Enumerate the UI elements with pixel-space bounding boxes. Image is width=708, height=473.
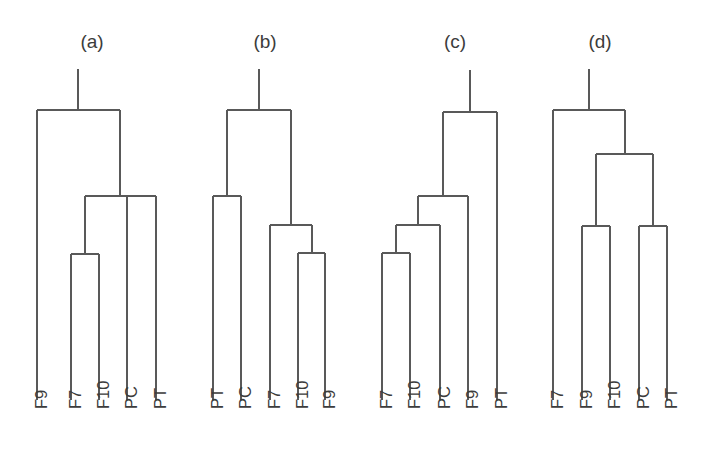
panel-title-a: (a) xyxy=(80,31,103,52)
panel-title-b: (b) xyxy=(253,31,276,52)
leaf-label: F9 xyxy=(32,390,50,409)
leaf-label: F9 xyxy=(463,390,481,409)
dendrogram-canvas: (a)F9F7F10PCPT(b)PTPCF7F10F9(c)F7F10PCF9… xyxy=(0,0,708,473)
leaf-label: F9 xyxy=(577,390,595,409)
leaf-label: PC xyxy=(634,386,652,409)
leaf-label: F7 xyxy=(66,390,84,409)
leaf-label: PT xyxy=(492,388,510,409)
leaf-label: F7 xyxy=(265,390,283,409)
leaf-label: PC xyxy=(122,386,140,409)
leaf-label: F7 xyxy=(548,390,566,409)
leaf-label: PC xyxy=(236,386,254,409)
leaf-label: F9 xyxy=(320,390,338,409)
panel-title-c: (c) xyxy=(444,31,466,52)
leaf-label: F10 xyxy=(405,381,423,409)
leaf-label: PT xyxy=(662,388,680,409)
dendrogram-figure: (a)F9F7F10PCPT(b)PTPCF7F10F9(c)F7F10PCF9… xyxy=(0,0,708,473)
leaf-label: F10 xyxy=(94,381,112,409)
leaf-label: F7 xyxy=(377,390,395,409)
leaf-label: PT xyxy=(151,388,169,409)
leaf-label: F10 xyxy=(293,381,311,409)
leaf-label: PC xyxy=(435,386,453,409)
leaf-label: F10 xyxy=(605,381,623,409)
leaf-label: PT xyxy=(208,388,226,409)
panel-title-d: (d) xyxy=(588,31,611,52)
